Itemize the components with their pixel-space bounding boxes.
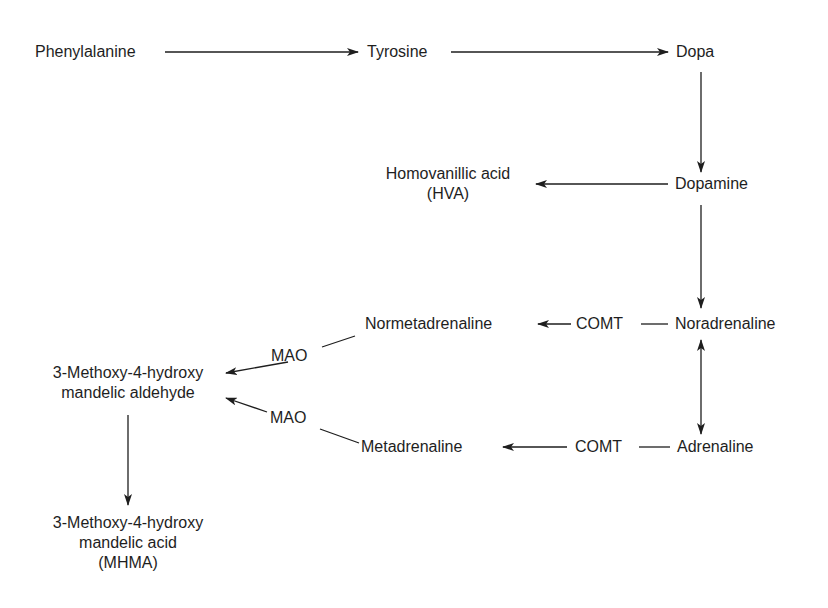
node-adrenaline: Adrenaline [677,437,754,457]
node-noradrenaline: Noradrenaline [675,314,776,334]
node-dopamine: Dopamine [675,174,748,194]
node-aldehyde: 3-Methoxy-4-hydroxy mandelic aldehyde [28,363,228,403]
hva-name: Homovanillic acid [366,164,530,184]
node-normetadrenaline: Normetadrenaline [365,314,492,334]
arrow-mao-aldehyde-bottom [226,398,267,412]
hva-abbrev: (HVA) [366,184,530,204]
aldehyde-line-2: mandelic aldehyde [28,383,228,403]
line-metadrenaline-mao [320,429,359,443]
node-phenylalanine: Phenylalanine [35,42,136,62]
enzyme-comt-bottom: COMT [575,437,622,457]
enzyme-mao-top: MAO [271,346,307,366]
node-metadrenaline: Metadrenaline [361,437,462,457]
node-hva: Homovanillic acid (HVA) [366,164,530,204]
aldehyde-line-1: 3-Methoxy-4-hydroxy [28,363,228,383]
mhma-line-2: mandelic acid [28,533,228,553]
enzyme-mao-bottom: MAO [270,408,306,428]
line-normetadrenaline-mao [322,336,355,347]
mhma-line-3: (MHMA) [28,553,228,573]
node-dopa: Dopa [676,42,714,62]
mhma-line-1: 3-Methoxy-4-hydroxy [28,513,228,533]
node-tyrosine: Tyrosine [367,42,427,62]
enzyme-comt-top: COMT [576,314,623,334]
node-mhma: 3-Methoxy-4-hydroxy mandelic acid (MHMA) [28,513,228,573]
